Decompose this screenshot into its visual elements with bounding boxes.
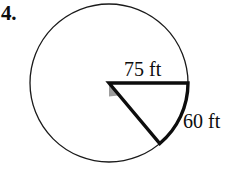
sector-outline [109,83,188,144]
circle-sector-diagram [0,0,229,171]
figure-canvas: 4. 75 ft 60 ft [0,0,229,171]
problem-number: 4. [1,1,16,25]
radius-dimension-label: 75 ft [124,59,161,79]
arc-dimension-label: 60 ft [183,111,220,131]
